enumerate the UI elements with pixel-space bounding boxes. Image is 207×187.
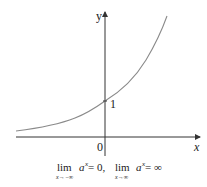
- lim2-result: = ∞: [145, 161, 162, 173]
- lim1-subscript: x→−∞: [55, 174, 74, 180]
- origin-label: 0: [97, 140, 103, 154]
- lim2-word: lim: [115, 161, 130, 173]
- limit-caption: lim x→−∞ a x = 0, lim x→∞ a x = ∞: [55, 160, 162, 180]
- y-axis-label: y: [96, 9, 102, 23]
- lim1-word: lim: [57, 161, 72, 173]
- exponential-curve: [16, 16, 167, 131]
- y-intercept-label: 1: [110, 97, 116, 111]
- x-axis-label: x: [193, 140, 200, 154]
- lim1-result: = 0,: [88, 161, 105, 173]
- lim2-subscript: x→∞: [114, 174, 129, 180]
- exponential-graph: y 1 0 x lim x→−∞ a x = 0, lim x→∞ a x = …: [0, 0, 207, 187]
